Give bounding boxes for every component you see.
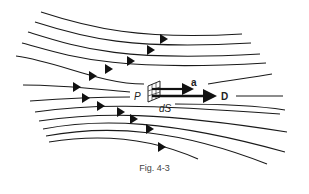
flux-line: [35, 106, 280, 114]
flux-line: [46, 130, 267, 164]
arrow-head-icon: [147, 45, 155, 55]
flux-line: [39, 115, 287, 132]
arrow-head-icon: [73, 82, 81, 92]
arrow-head-icon: [105, 64, 113, 74]
flux-line: [175, 104, 285, 110]
label-p: P: [134, 91, 141, 102]
arrow-head-icon: [158, 142, 166, 152]
label-a: a: [191, 77, 197, 88]
surface-element-ds: [148, 81, 160, 102]
flux-line: [22, 43, 266, 66]
arrow-head-icon: [89, 71, 97, 81]
arrow-head-icon: [82, 93, 90, 103]
flux-line: [16, 56, 144, 84]
figure-caption: Fig. 4-3: [0, 163, 309, 173]
label-ds: dS: [159, 103, 172, 114]
flux-line: [49, 138, 198, 159]
label-d: D: [221, 91, 228, 102]
flux-line: [208, 74, 272, 84]
flux-line: [30, 97, 130, 101]
arrow-head-icon: [97, 101, 105, 111]
